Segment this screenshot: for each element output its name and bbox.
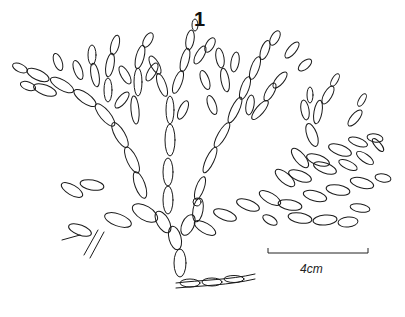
alga-illustration (0, 0, 405, 317)
scale-bar-label: 4cm (300, 262, 323, 276)
scale-bar (268, 248, 368, 253)
